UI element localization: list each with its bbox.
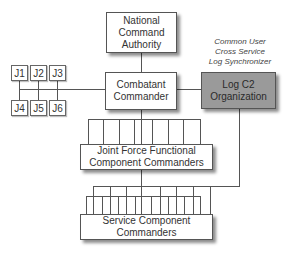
staff-j3: J3 [49, 65, 66, 81]
logc2-label: Log C2 Organization [210, 79, 267, 103]
log-synchronizer-annotation: Common User Cross Service Log Synchroniz… [200, 37, 280, 67]
staff-j5: J5 [30, 100, 47, 116]
node-national-command-authority: National Command Authority [106, 12, 177, 53]
staff-j4: J4 [11, 100, 28, 116]
node-joint-force-functional-component-commanders: Joint Force Functional Component Command… [80, 144, 213, 170]
jfcc-label: Joint Force Functional Component Command… [89, 145, 204, 169]
org-diagram: National Command Authority Combatant Com… [0, 0, 289, 253]
combatant-label: Combatant Commander [113, 79, 168, 103]
scc-label: Service Component Commanders [103, 215, 191, 239]
node-service-component-commanders: Service Component Commanders [80, 214, 213, 240]
node-log-c2-organization: Log C2 Organization [201, 72, 276, 109]
staff-j2: J2 [30, 65, 47, 81]
node-combatant-commander: Combatant Commander [105, 72, 177, 110]
nca-label: National Command Authority [118, 15, 164, 51]
staff-j6: J6 [49, 100, 66, 116]
staff-j1: J1 [11, 65, 28, 81]
